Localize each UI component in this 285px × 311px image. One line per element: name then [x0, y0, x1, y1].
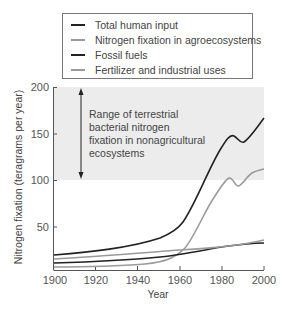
annotation-line: ecosystems	[89, 147, 144, 159]
annotation-line: Range of terrestrial	[89, 108, 178, 120]
x-tick-label: 1940	[126, 274, 150, 286]
y-axis-title: Nitrogen fixation (teragrams per year)	[12, 90, 24, 265]
x-axis-title: Year	[147, 288, 169, 300]
chart-plot: 200 150 100 50 1900 1920 1940 1960 1980 …	[0, 0, 285, 311]
series-agroecosystems-line	[54, 240, 264, 259]
y-tick-label: 50	[37, 221, 49, 233]
x-tick-label: 1900	[43, 274, 67, 286]
x-ticks	[96, 266, 265, 270]
x-tick-label: 1920	[84, 274, 108, 286]
y-tick-label: 150	[31, 128, 49, 140]
x-tick-label: 1960	[168, 274, 192, 286]
annotation-line: fixation in nonagricultural	[89, 134, 205, 146]
y-tick-label: 100	[31, 174, 49, 186]
x-tick-label: 2000	[252, 274, 276, 286]
annotation-line: bacterial nitrogen	[89, 121, 170, 133]
x-tick-label: 1980	[210, 274, 234, 286]
y-tick-label: 200	[31, 81, 49, 93]
